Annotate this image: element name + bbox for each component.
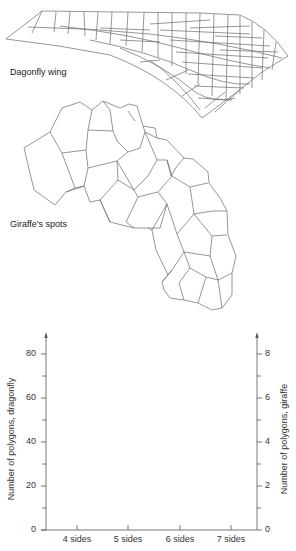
- left-tick-0: 0: [31, 524, 36, 534]
- left-tick-20: 20: [26, 480, 36, 490]
- left-tick-60: 60: [26, 392, 36, 402]
- right-axis-title: Number of polygons, giraffe: [279, 374, 289, 504]
- right-tick-6: 6: [265, 392, 270, 402]
- left-tick-80: 80: [26, 348, 36, 358]
- category-7-sides: 7 sides: [211, 534, 251, 544]
- giraffe-spots-label: Giraffe's spots: [10, 219, 67, 229]
- right-tick-0: 0: [265, 524, 270, 534]
- illustration: [0, 0, 296, 330]
- right-tick-4: 4: [265, 436, 270, 446]
- dragonfly-wing-outline: [6, 11, 288, 118]
- left-tick-40: 40: [26, 436, 36, 446]
- category-5-sides: 5 sides: [108, 534, 148, 544]
- left-axis-title: Number of polygons, dragonfly: [6, 374, 16, 504]
- category-6-sides: 6 sides: [160, 534, 200, 544]
- right-tick-2: 2: [265, 480, 270, 490]
- giraffe-spots-outline: [24, 101, 236, 310]
- chart-axes: [0, 320, 296, 551]
- category-4-sides: 4 sides: [57, 534, 97, 544]
- dragonfly-wing-label: Dagonfly wing: [10, 67, 67, 77]
- right-tick-8: 8: [265, 348, 270, 358]
- chart: 80 60 40 20 0 8 6 4 2 0 4 sides 5 sides …: [0, 320, 296, 551]
